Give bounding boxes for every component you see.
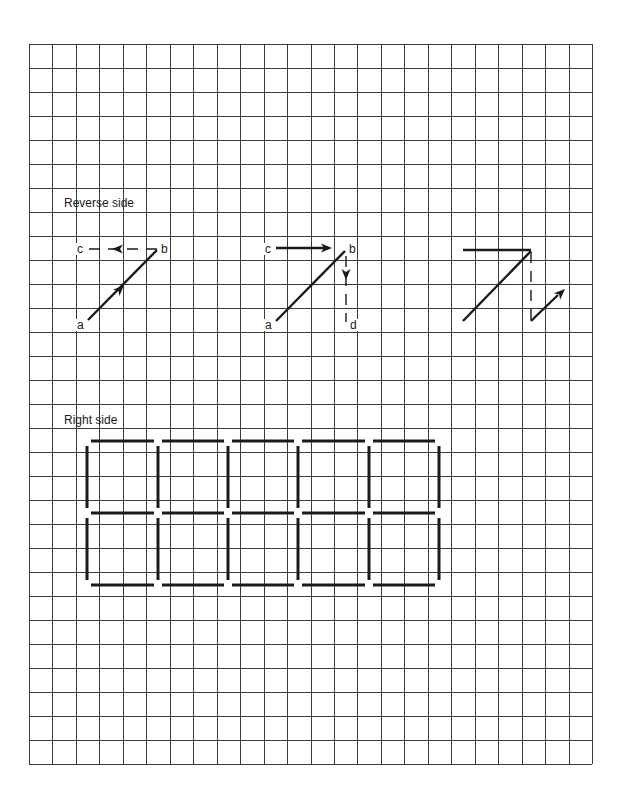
point-label-d: d bbox=[350, 318, 357, 332]
point-label-a: a bbox=[77, 318, 84, 332]
point-label-a: a bbox=[265, 318, 272, 332]
right-side-label: Right side bbox=[64, 413, 118, 427]
point-label-b: b bbox=[161, 242, 168, 256]
point-label-c: c bbox=[77, 242, 83, 256]
diagram-canvas: abcabcd Reverse side Right side bbox=[0, 0, 623, 799]
point-label-c: c bbox=[265, 242, 271, 256]
reverse-side-label: Reverse side bbox=[64, 196, 134, 210]
point-label-b: b bbox=[349, 242, 356, 256]
